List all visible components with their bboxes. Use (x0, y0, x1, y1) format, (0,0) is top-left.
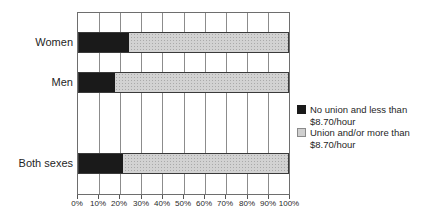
x-axis-label: 10% (90, 199, 106, 209)
category-label: Men (0, 75, 73, 89)
x-axis-label: 30% (133, 199, 149, 209)
legend-label: No union and less than $8.70/hour (310, 104, 435, 127)
x-axis-label: 100% (279, 199, 299, 209)
bar-segment-no-union (79, 73, 115, 92)
legend-swatch-black (297, 105, 306, 114)
x-axis-label: 60% (196, 199, 212, 209)
x-axis-label: 70% (217, 199, 233, 209)
legend-swatch-gray (297, 128, 306, 137)
legend-item-no-union: No union and less than $8.70/hour (297, 104, 435, 127)
bar-segment-no-union (79, 154, 123, 173)
stacked-bar-chart: No union and less than $8.70/hour Union … (0, 0, 440, 220)
bar-both-sexes (78, 153, 289, 174)
category-label: Both sexes (0, 156, 73, 170)
bar-men (78, 72, 289, 93)
x-axis-label: 0% (71, 199, 83, 209)
legend-item-union: Union and/or more than $8.70/hour (297, 127, 435, 150)
x-axis-label: 80% (239, 199, 255, 209)
legend: No union and less than $8.70/hour Union … (297, 104, 435, 150)
x-axis-label: 90% (260, 199, 276, 209)
category-label: Women (0, 35, 73, 49)
legend-label: Union and/or more than $8.70/hour (310, 127, 435, 150)
x-axis-label: 50% (175, 199, 191, 209)
x-axis-label: 40% (154, 199, 170, 209)
plot-area (77, 12, 290, 195)
x-axis-label: 20% (111, 199, 127, 209)
bar-women (78, 32, 289, 53)
bar-segment-no-union (79, 33, 129, 52)
